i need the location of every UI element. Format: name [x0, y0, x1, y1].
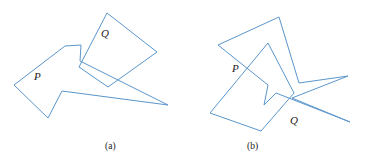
panel-b: P Q (b) — [210, 17, 350, 152]
figure-container: P Q (a) P Q (b) — [0, 0, 368, 165]
geometry-figure-svg: P Q (a) P Q (b) — [0, 0, 368, 165]
panel-a-caption: (a) — [105, 141, 116, 152]
panel-a-label-p: P — [33, 70, 41, 82]
panel-b-caption: (b) — [247, 141, 258, 152]
panel-a-label-q: Q — [101, 27, 109, 39]
panel-a: P Q (a) — [14, 13, 168, 152]
panel-a-polygon-q — [79, 13, 157, 87]
panel-b-polygon-q — [210, 43, 294, 131]
panel-b-label-q: Q — [290, 114, 298, 126]
panel-b-label-p: P — [231, 62, 239, 74]
